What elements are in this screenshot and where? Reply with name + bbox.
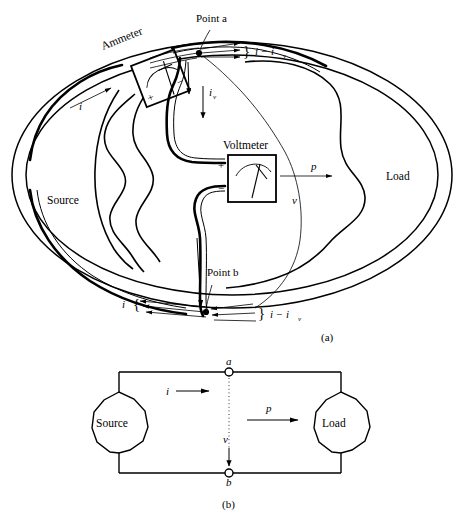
ammeter-label: Ammeter [99, 24, 144, 51]
bottom-in-streamline-3 [214, 320, 256, 321]
node-a [225, 368, 233, 376]
panel-a-caption: (a) [321, 331, 334, 344]
bottom-current-label: i [122, 298, 125, 310]
voltmeter-minus-sign: − [218, 182, 224, 194]
top-diff-label: i − i [255, 45, 274, 57]
source-label-b: Source [96, 417, 128, 429]
point-b-label: Point b [207, 266, 239, 278]
bottom-brace-close: } [258, 305, 265, 321]
power-label-b: p [265, 402, 272, 414]
source-region-boundary [95, 90, 133, 269]
point-a-label: Point a [196, 12, 227, 24]
voltage-label: v [292, 194, 297, 206]
point-b-leader [206, 285, 212, 309]
voltmeter: + − [218, 155, 276, 202]
bottom-brace-open: { [133, 296, 140, 312]
current-in-label: i [79, 100, 82, 112]
bottom-conductor-inner [37, 190, 186, 308]
source-label-a: Source [47, 194, 79, 206]
panel-b-caption: (b) [222, 498, 235, 511]
bottom-diff-label: i − i [270, 308, 289, 320]
node-a-label: a [226, 355, 232, 367]
voltmeter-label: Voltmeter [223, 139, 268, 151]
top-brace: } [243, 43, 250, 59]
current-in-arrow [70, 88, 111, 108]
bottom-in-streamline-2 [212, 313, 255, 315]
power-label: p [310, 160, 317, 172]
voltage-label-b: v [223, 433, 228, 445]
source-region-inner-curve [104, 94, 144, 272]
iv-label-subscript: v [213, 93, 217, 101]
fan-arrow-2 [201, 50, 240, 53]
panel-b: Source Load a b v i p (b) [92, 355, 370, 511]
panel-a: + − Ammeter i } i − i v Point a [12, 12, 452, 344]
voltmeter-branch-minus [194, 186, 225, 316]
source-outer-wiggle [133, 86, 160, 262]
fan-arrow-1 [201, 43, 240, 49]
load-label-a: Load [386, 170, 410, 182]
load-label-b: Load [322, 417, 346, 429]
current-label-b: i [166, 385, 169, 397]
figure-root: + − Ammeter i } i − i v Point a [0, 0, 464, 524]
bottom-diff-subscript: v [298, 315, 302, 323]
voltmeter-body [228, 155, 276, 202]
iv-label-base: i [209, 86, 212, 98]
voltmeter-plus-sign: + [218, 159, 224, 171]
figure-svg: + − Ammeter i } i − i v Point a [0, 0, 464, 524]
node-b-label: b [226, 476, 232, 488]
